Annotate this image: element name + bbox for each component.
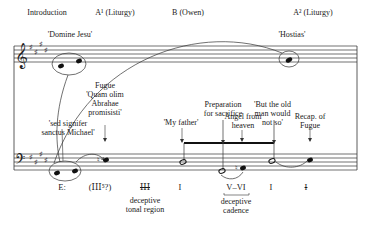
harmony-i-3: I xyxy=(296,183,316,192)
section-a1: A¹ (Liturgy) xyxy=(85,8,145,17)
label-fugue: Fugue 'Quam olim Abrahae promisisti' xyxy=(80,81,130,117)
label-deceptive-region: deceptive tonal region xyxy=(120,196,170,214)
section-introduction: Introduction xyxy=(17,8,77,17)
label-recap: Recap. of Fugue xyxy=(288,112,332,130)
slur-v-vi xyxy=(221,172,243,179)
svg-text:♯: ♯ xyxy=(39,150,43,159)
label-hostias: 'Hostias' xyxy=(262,30,322,39)
note-v xyxy=(218,168,226,174)
harmony-iii-v: (ⅠⅠⅠ⁵?) xyxy=(80,183,120,192)
svg-text:♯: ♯ xyxy=(29,43,33,52)
bass-key-signature: ♯ ♯ ♯ ♯ xyxy=(29,150,48,167)
treble-key-signature: ♯ ♯ ♯ ♯ xyxy=(29,40,48,57)
bass-clef-icon: 𝄢 xyxy=(15,151,25,170)
svg-text:♯: ♯ xyxy=(34,158,38,167)
label-deceptive-cadence: deceptive cadence xyxy=(213,197,259,215)
harmony-i-1: I xyxy=(170,183,190,192)
label-domine-jesu: 'Domine Jesu' xyxy=(40,30,100,39)
note-i-2 xyxy=(268,158,276,164)
svg-text:♯: ♯ xyxy=(34,48,38,57)
note-bass-2 xyxy=(71,168,78,174)
label-my-father: 'My father' xyxy=(156,118,206,127)
svg-text:♯: ♯ xyxy=(44,156,48,165)
label-angel: Angel from heaven xyxy=(222,112,264,130)
domine-jesu-circle xyxy=(52,53,86,75)
note-treble-1 xyxy=(57,63,64,69)
section-b: B (Owen) xyxy=(158,8,218,17)
note-bass-1 xyxy=(53,170,60,176)
treble-clef-icon: 𝄞 xyxy=(15,43,28,69)
svg-text:♯: ♯ xyxy=(44,46,48,55)
note-hostias xyxy=(285,56,293,63)
svg-text:♯: ♯ xyxy=(29,153,33,162)
note-treble-2 xyxy=(75,58,82,64)
label-sed-signifer: 'sed signifer sanctus Michael' xyxy=(38,119,98,137)
cadence-bracket xyxy=(224,193,249,195)
harmony-i-2: I xyxy=(261,183,281,192)
section-a2: A² (Liturgy) xyxy=(283,8,343,17)
natural-sign: ♮ xyxy=(97,156,100,164)
harmony-v-vi: V–VI xyxy=(221,183,251,192)
treble-staff xyxy=(14,46,357,62)
key-label: E: xyxy=(52,183,72,192)
svg-text:♯: ♯ xyxy=(39,40,43,49)
svg-text:♮: ♮ xyxy=(235,164,238,172)
harmony-iii: ⅠⅠⅠ xyxy=(130,183,160,192)
